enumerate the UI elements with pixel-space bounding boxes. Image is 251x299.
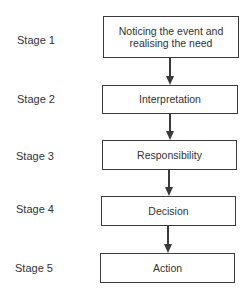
stage-3-label: Stage 3 [16, 150, 54, 162]
stage-3-box-text: Responsibility [137, 149, 202, 162]
stage-5-box: Action [100, 253, 235, 283]
arrow-head [164, 244, 172, 253]
stage-5-label: Stage 5 [15, 262, 53, 274]
stage-5-box-text: Action [153, 262, 182, 275]
arrow-head [166, 76, 174, 85]
stage-3-box: Responsibility [102, 140, 237, 170]
arrow-head [165, 187, 173, 196]
stage-2-label: Stage 2 [17, 93, 55, 105]
stage-2-box-text: Interpretation [139, 93, 201, 106]
arrow-line [169, 114, 170, 132]
stage-1-box: Noticing the event and realising the nee… [103, 16, 239, 58]
arrow-line [167, 226, 168, 245]
stage-1-box-text: Noticing the event and realising the nee… [112, 25, 230, 50]
arrow-head [166, 131, 174, 140]
stage-4-box-text: Decision [148, 205, 188, 218]
stage-1-label: Stage 1 [17, 34, 55, 46]
stage-4-label: Stage 4 [16, 203, 54, 215]
stage-4-box: Decision [101, 196, 236, 226]
stage-2-box: Interpretation [102, 85, 238, 114]
arrow-line [168, 170, 169, 188]
arrow-line [169, 58, 170, 77]
